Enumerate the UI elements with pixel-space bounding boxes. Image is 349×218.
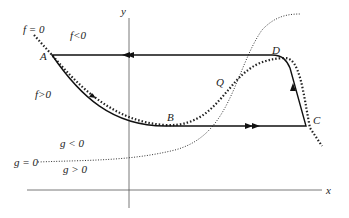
- point-c-label: C: [313, 114, 321, 126]
- g-zero-label: g = 0: [14, 156, 38, 168]
- point-a-label: A: [39, 50, 47, 62]
- f-zero-label: f = 0: [23, 23, 45, 35]
- f-negative-label: f<0: [70, 29, 86, 41]
- point-d-label: D: [271, 44, 280, 56]
- limit-cycle-orbit: [52, 55, 306, 126]
- point-b-label: B: [167, 111, 174, 123]
- f-positive-label: f>0: [35, 88, 51, 100]
- g-negative-label: g < 0: [60, 137, 84, 149]
- phase-plane-diagram: y x A B C D Q f = 0 f<0 f>0 g < 0 g = 0 …: [0, 0, 349, 218]
- x-axis-label: x: [325, 184, 331, 196]
- arrow-right-icon: [245, 123, 253, 129]
- y-axis-label: y: [120, 5, 126, 17]
- g-positive-label: g > 0: [63, 163, 87, 175]
- point-q-label: Q: [216, 76, 224, 88]
- arrow-right-icon: [252, 123, 260, 129]
